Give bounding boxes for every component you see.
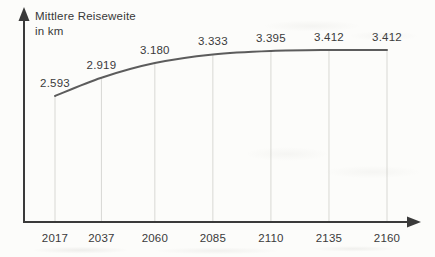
value-label: 2.593 <box>40 77 70 89</box>
value-label: 3.412 <box>372 31 402 43</box>
trend-line <box>55 50 387 96</box>
x-tick-label: 2160 <box>374 232 400 244</box>
value-label: 3.333 <box>198 35 228 47</box>
x-tick-label: 2060 <box>142 232 168 244</box>
x-tick-label: 2085 <box>200 232 226 244</box>
line-chart: 2.5932.9193.1803.3333.3953.4123.41220172… <box>0 0 435 257</box>
value-label: 2.919 <box>87 59 117 71</box>
x-tick-label: 2037 <box>88 232 114 244</box>
x-tick-label: 2110 <box>258 232 284 244</box>
scanned-line-chart-figure: Mittlere Reiseweite in km 2.5932.9193.18… <box>0 0 435 257</box>
x-axis-arrow-icon <box>407 217 421 228</box>
y-axis-arrow-icon <box>19 7 30 21</box>
value-label: 3.412 <box>314 31 344 43</box>
x-tick-label: 2017 <box>42 232 68 244</box>
value-label: 3.395 <box>256 32 286 44</box>
x-tick-label: 2135 <box>316 232 342 244</box>
value-label: 3.180 <box>140 44 170 56</box>
